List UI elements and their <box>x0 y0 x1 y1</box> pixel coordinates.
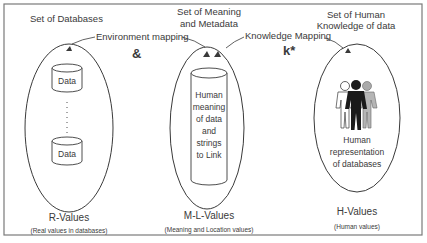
set-meaning-title-1: Set of Meaning <box>177 6 241 17</box>
triangle-marker-icon <box>66 46 72 51</box>
meaning-text-3: of data <box>196 114 222 124</box>
meaning-text-5: strings <box>196 138 221 148</box>
knowledge-mapping-label: Knowledge Mapping <box>245 30 331 41</box>
meaning-text-4: and <box>202 126 216 136</box>
meaning-text-2: meaning <box>193 102 226 112</box>
r-values-label: R-Values <box>49 212 89 223</box>
data-label-2: Data <box>58 149 76 159</box>
data-label-1: Data <box>58 76 76 86</box>
and-operator: & <box>132 46 141 61</box>
set-databases-title: Set of Databases <box>30 13 103 24</box>
diagram-canvas: Set of Databases Environment mapping & D… <box>0 0 427 243</box>
h-values-sublabel: (Human values) <box>334 223 380 231</box>
r-values-sublabel: (Real values in databases) <box>31 227 108 235</box>
k-star-operator: k* <box>283 43 296 58</box>
m-l-values-sublabel: (Meaning and Location values) <box>165 226 254 234</box>
triangle-marker-icon <box>345 48 351 53</box>
human-representation-text-1: Human <box>343 135 371 145</box>
set-human-title-1: Set of Human <box>327 9 385 20</box>
human-representation-text-3: of databases <box>333 159 382 169</box>
h-values-label: H-Values <box>337 206 377 217</box>
environment-mapping-arrow-left <box>72 37 95 44</box>
m-l-values-label: M-L-Values <box>184 210 234 221</box>
environment-mapping-label: Environment mapping <box>96 31 188 42</box>
meaning-text-6: to Link <box>196 150 222 160</box>
meaning-text-1: Human <box>195 90 223 100</box>
people-group-icon <box>336 80 377 130</box>
set-human-title-2: Knowledge of data <box>317 20 396 31</box>
set-meaning-title-2: and Metadata <box>180 18 239 29</box>
human-representation-text-2: representation <box>330 147 385 157</box>
triangle-marker-icon <box>203 51 210 57</box>
knowledge-mapping-arrow-left <box>226 37 244 48</box>
